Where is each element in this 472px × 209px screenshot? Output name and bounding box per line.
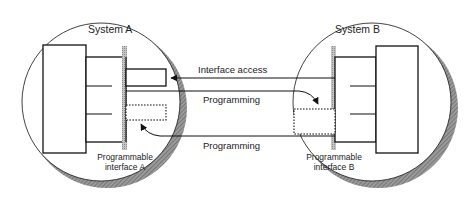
interface-a-caption-line1: Programmable [97,152,153,162]
interface-b-caption-line2: interface B [314,162,355,172]
system-b-inner-block [335,57,376,142]
system-a-main-block [43,45,86,153]
system-a-interface-stub [126,69,166,86]
system-a-title: System A [88,23,132,35]
system-b-main-block [376,46,418,153]
interface-a-caption-line2: interface A [105,162,145,172]
system-b-programmed-stub-dashed [294,109,335,134]
edge-label-programming-b-to-a: Programming [203,140,260,151]
edge-label-interface-access: Interface access [198,64,267,75]
system-a-inner-block [86,57,124,142]
diagram-canvas: System A Programmable interface A System… [0,0,472,209]
system-b-title: System B [335,23,380,35]
interface-b-caption-line1: Programmable [306,152,362,162]
system-b: System B Programmable interface B [293,23,458,188]
system-a-programmed-stub-dashed [126,105,166,120]
edge-label-programming-a-to-b: Programming [203,94,260,105]
system-a: System A Programmable interface A [22,23,187,188]
